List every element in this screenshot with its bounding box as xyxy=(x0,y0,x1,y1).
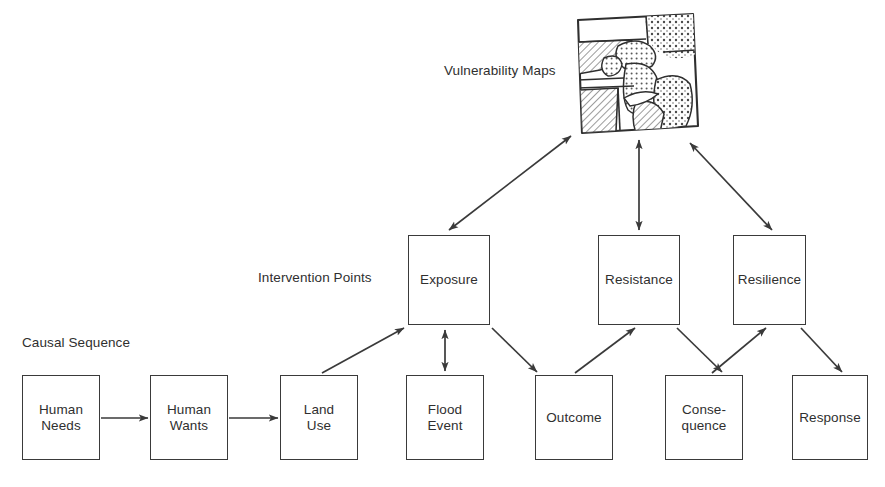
diagram-canvas: Vulnerability Maps Intervention Points C… xyxy=(0,0,885,487)
node-human-needs-label: Human Needs xyxy=(37,402,85,434)
node-outcome-label: Outcome xyxy=(544,410,603,426)
arrow-resilience-to-map xyxy=(690,143,772,230)
arrow-outcome-to-resistance xyxy=(575,328,635,373)
node-consequence-label: Conse- quence xyxy=(680,402,729,434)
arrow-exposure-to-map xyxy=(449,136,571,230)
node-human-wants-label: Human Wants xyxy=(165,402,213,434)
node-flood-event-label: Flood Event xyxy=(425,402,464,434)
vulnerability-map-thumbnail xyxy=(560,2,710,142)
node-land-use[interactable]: Land Use xyxy=(280,375,358,460)
row-label-intervention-points: Intervention Points xyxy=(258,270,372,285)
arrow-resilience-to-response xyxy=(801,328,842,372)
node-land-use-label: Land Use xyxy=(302,402,336,434)
arrow-consequence-to-resilience xyxy=(712,328,766,373)
node-flood-event[interactable]: Flood Event xyxy=(406,375,484,460)
vulnerability-maps-caption: Vulnerability Maps xyxy=(444,63,556,78)
arrow-resistance-to-consequence xyxy=(677,328,722,372)
node-resilience[interactable]: Resilience xyxy=(733,235,806,325)
row-label-causal-sequence: Causal Sequence xyxy=(22,335,130,350)
node-outcome[interactable]: Outcome xyxy=(535,375,613,460)
arrow-exposure-to-outcome xyxy=(492,328,537,372)
node-exposure[interactable]: Exposure xyxy=(408,235,490,325)
node-resilience-label: Resilience xyxy=(736,272,803,288)
node-consequence[interactable]: Conse- quence xyxy=(665,375,743,460)
arrow-land-use-to-exposure xyxy=(322,328,404,373)
node-human-needs[interactable]: Human Needs xyxy=(22,375,100,460)
node-resistance[interactable]: Resistance xyxy=(598,235,680,325)
node-exposure-label: Exposure xyxy=(418,272,480,288)
node-response-label: Response xyxy=(797,410,863,426)
node-resistance-label: Resistance xyxy=(603,272,675,288)
node-human-wants[interactable]: Human Wants xyxy=(150,375,228,460)
node-response[interactable]: Response xyxy=(792,375,868,460)
